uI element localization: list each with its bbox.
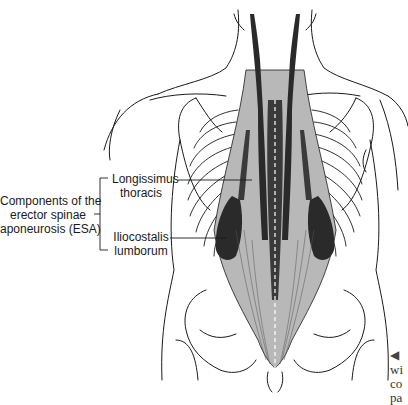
label-line: thoracis xyxy=(112,186,170,200)
shoulder-left xyxy=(104,94,158,150)
scapula-left xyxy=(179,98,210,210)
label-line: Iliocostalis xyxy=(112,230,170,244)
label-longissimus-thoracis: Longissimus thoracis xyxy=(112,172,170,200)
caption-line: co xyxy=(390,377,403,391)
label-line: Components of the xyxy=(0,194,96,208)
caption-line: wi xyxy=(390,363,403,377)
neck-outline-right xyxy=(311,10,388,96)
label-line: Longissimus xyxy=(112,172,170,186)
shoulder-right xyxy=(388,96,408,126)
caption-line: pa xyxy=(390,391,403,405)
label-iliocostalis-lumborum: Iliocostalis lumborum xyxy=(112,230,170,258)
bracket xyxy=(100,178,108,250)
caption-fragment: ◀ wi co pa xyxy=(390,348,403,405)
torso-right xyxy=(370,140,388,380)
label-line: aponeurosis (ESA) xyxy=(0,222,96,236)
erector-spinae-muscles xyxy=(214,14,336,370)
label-line: erector spinae xyxy=(0,208,96,222)
label-esa-components: Components of the erector spinae aponeur… xyxy=(0,194,96,236)
label-line: lumborum xyxy=(112,244,170,258)
caption-arrow-icon: ◀ xyxy=(390,348,403,362)
neck-outline-left xyxy=(158,10,239,94)
